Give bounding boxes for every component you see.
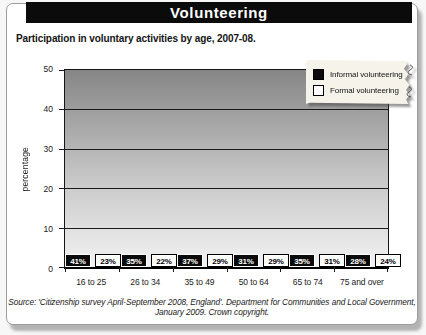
legend-paper: Informal volunteering Formal volunteerin…: [306, 60, 416, 104]
gridline: [65, 188, 388, 189]
y-tick-label: 10: [44, 224, 53, 234]
bar-informal-volunteering: 41%: [65, 254, 91, 267]
x-axis-tick: [387, 267, 388, 272]
bar-value-label: 35%: [294, 257, 309, 266]
y-tick-label: 50: [44, 64, 53, 74]
legend-item-informal: Informal volunteering: [313, 69, 406, 80]
x-tick-label: 26 to 34: [118, 277, 172, 287]
bar-value-label: 22%: [156, 257, 171, 266]
chart-subtitle: Participation in voluntary activities by…: [16, 33, 256, 44]
bar-informal-volunteering: 35%: [289, 254, 315, 267]
bar-value-label: 31%: [324, 257, 339, 266]
bar-group-50-to-64: 31%29%: [233, 254, 289, 267]
informal-swatch-icon: [313, 69, 324, 80]
x-tick-label: 75 and over: [335, 277, 389, 287]
legend-label: Informal volunteering: [330, 70, 403, 79]
bar-informal-volunteering: 35%: [121, 254, 147, 267]
bar-value-label: 29%: [268, 257, 283, 266]
formal-swatch-icon: [313, 85, 324, 96]
bar-value-label: 23%: [100, 257, 115, 266]
legend-label: Formal volunteering: [330, 86, 399, 95]
torn-edge-icon: [404, 63, 416, 101]
y-axis-tick: [59, 149, 65, 150]
source-note: Source: 'Citizenship survey April-Septem…: [7, 297, 417, 317]
bar-formal-volunteering: 23%: [95, 254, 121, 267]
x-tick-label: 35 to 49: [172, 277, 226, 287]
y-axis-tick: [59, 188, 65, 189]
y-tick-label: 0: [48, 264, 53, 274]
page-title: Volunteering: [170, 4, 268, 21]
header-bar: Volunteering: [26, 2, 412, 23]
bar-value-label: 28%: [350, 257, 365, 266]
legend-item-formal: Formal volunteering: [313, 85, 406, 96]
bar-group-35-to-49: 37%29%: [177, 254, 233, 267]
bar-value-label: 24%: [380, 257, 395, 266]
bar-group-26-to-34: 35%22%: [121, 254, 177, 267]
bar-value-label: 41%: [70, 257, 85, 266]
y-tick-label: 30: [44, 144, 53, 154]
bar-formal-volunteering: 29%: [263, 254, 289, 267]
x-axis-tick: [334, 267, 335, 272]
bar-formal-volunteering: 29%: [207, 254, 233, 267]
y-axis-tick: [59, 228, 65, 229]
y-tick-label: 40: [44, 104, 53, 114]
y-axis-title: percentage: [19, 69, 31, 269]
x-axis-tick: [119, 267, 120, 272]
bar-group-75-and-over: 28%24%: [345, 254, 401, 267]
x-tick-label: 16 to 25: [64, 277, 118, 287]
gridline: [65, 109, 388, 110]
x-axis-tick-labels: 16 to 2526 to 3435 to 4950 to 6465 to 74…: [64, 277, 389, 287]
y-axis-tick-labels: 01020304050: [35, 69, 61, 269]
y-axis-title-text: percentage: [20, 147, 30, 192]
bar-group-65-to-74: 35%31%: [289, 254, 345, 267]
bar-group-16-to-25: 41%23%: [65, 254, 121, 267]
bar-formal-volunteering: 24%: [375, 254, 401, 267]
y-axis-tick: [59, 70, 65, 71]
x-axis-tick: [280, 267, 281, 272]
bar-informal-volunteering: 31%: [233, 254, 259, 267]
x-axis-tick: [65, 267, 66, 272]
legend: Informal volunteering Formal volunteerin…: [306, 60, 416, 104]
y-tick-label: 20: [44, 184, 53, 194]
y-axis-tick: [59, 109, 65, 110]
bar-value-label: 35%: [126, 257, 141, 266]
x-axis-tick: [227, 267, 228, 272]
bar-informal-volunteering: 28%: [345, 254, 371, 267]
x-axis-tick: [173, 267, 174, 272]
bar-informal-volunteering: 37%: [177, 254, 203, 267]
bar-value-label: 37%: [182, 257, 197, 266]
gridline: [65, 149, 388, 150]
bar-value-label: 31%: [238, 257, 253, 266]
bar-formal-volunteering: 31%: [319, 254, 345, 267]
x-tick-label: 50 to 64: [227, 277, 281, 287]
bar-value-label: 29%: [212, 257, 227, 266]
bar-formal-volunteering: 22%: [151, 254, 177, 267]
x-tick-label: 65 to 74: [281, 277, 335, 287]
chart-card: Volunteering Participation in voluntary …: [6, 3, 418, 325]
gridline: [65, 228, 388, 229]
